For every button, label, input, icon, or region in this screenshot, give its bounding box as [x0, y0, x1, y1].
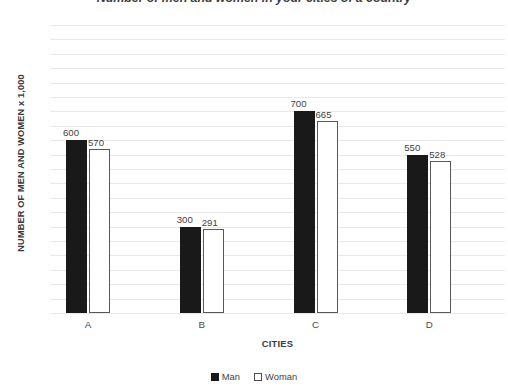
bar-woman: [203, 229, 224, 313]
data-label-woman: 665: [316, 110, 332, 120]
legend-label: Woman: [265, 371, 297, 382]
legend-swatch-woman-icon: [254, 373, 262, 381]
title-clipped-remnant: ': [36, 0, 38, 4]
x-axis-tick-label: D: [407, 319, 451, 330]
data-label-woman: 528: [429, 150, 445, 160]
bar-woman: [89, 149, 110, 313]
bar-group: 300291: [180, 25, 226, 313]
bar-woman: [430, 161, 451, 313]
data-label-woman: 291: [202, 218, 218, 228]
data-label-man: 600: [63, 128, 79, 138]
x-axis-tick-label: C: [294, 319, 338, 330]
bar-man: [180, 227, 201, 313]
bar-group: 550528: [407, 25, 453, 313]
bar-group: 700665: [294, 25, 340, 313]
legend-swatch-man-icon: [211, 373, 219, 381]
plot-area: 1000950900850800750700650600550500450400…: [50, 25, 505, 313]
x-axis-tick-label: A: [66, 319, 110, 330]
bar-woman: [317, 121, 338, 313]
legend-item[interactable]: Woman: [254, 371, 297, 382]
bar-group: 600570: [66, 25, 112, 313]
chart-legend: ManWoman: [0, 371, 508, 382]
bar-man: [407, 155, 428, 313]
legend-label: Man: [222, 371, 240, 382]
bar-man: [294, 111, 315, 313]
y-gridline: [50, 313, 505, 314]
data-label-man: 700: [291, 99, 307, 109]
data-label-man: 550: [404, 143, 420, 153]
legend-item[interactable]: Man: [211, 371, 240, 382]
chart-title: Number of men and women in your cities o…: [0, 0, 508, 5]
y-axis-title: NUMBER OF MEN AND WOMEN x 1,000: [16, 38, 26, 288]
x-axis-tick-label: B: [180, 319, 224, 330]
bar-man: [66, 140, 87, 313]
x-axis-title: CITIES: [50, 338, 505, 349]
data-label-woman: 570: [88, 138, 104, 148]
data-label-man: 300: [177, 215, 193, 225]
